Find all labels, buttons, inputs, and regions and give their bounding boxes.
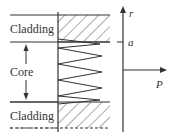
cladding-top-label: Cladding <box>10 22 54 36</box>
r-axis-label: r <box>129 7 134 19</box>
p-axis <box>123 67 167 73</box>
r-axis <box>120 6 126 132</box>
a-marker-label: a <box>128 36 134 48</box>
p-axis-label: P <box>155 78 163 90</box>
core-label: Core <box>10 65 33 79</box>
cladding-bottom-label: Cladding <box>10 109 54 123</box>
mode-profile-curve <box>58 39 102 104</box>
fiber-profile-diagram: r a P Cladding Core Cladding <box>0 0 174 138</box>
